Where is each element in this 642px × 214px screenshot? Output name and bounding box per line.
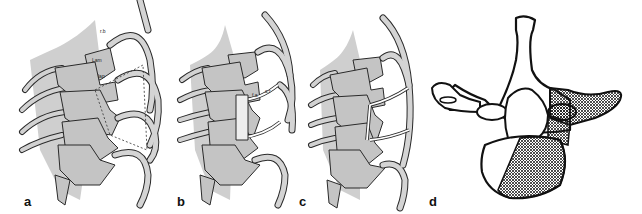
svg-text:f.a: f.a [252, 92, 258, 98]
svg-text:lap: lap [98, 73, 105, 79]
panel-a: r.b Lam lap a [0, 0, 170, 214]
spine-ribs-illustration-a: r.b Lam lap [0, 0, 170, 214]
panel-c: c [305, 0, 430, 214]
spine-ribs-illustration-b: f.a c.r [170, 0, 310, 214]
panel-label-b: b [177, 194, 185, 209]
svg-text:Lam: Lam [92, 57, 102, 63]
panel-label-c: c [299, 194, 306, 209]
vertebra-illustration-d [420, 0, 642, 214]
svg-text:r.b: r.b [100, 28, 106, 34]
panel-d: d [420, 0, 642, 214]
panel-label-a: a [24, 194, 31, 209]
svg-text:c.r: c.r [265, 88, 271, 94]
panel-b: f.a c.r b [170, 0, 310, 214]
panel-label-d: d [429, 194, 437, 209]
spine-ribs-illustration-c [305, 0, 430, 214]
